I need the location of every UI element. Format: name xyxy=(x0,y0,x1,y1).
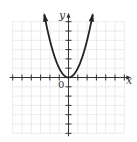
y-axis-label: y xyxy=(59,10,65,21)
x-axis-label: x xyxy=(126,75,132,86)
origin-label: 0 xyxy=(58,80,64,90)
parabola-graph xyxy=(0,0,137,142)
